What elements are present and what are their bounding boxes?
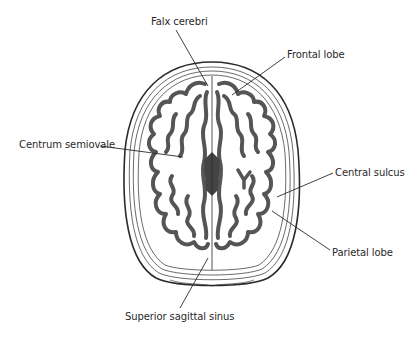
label-superior-sagittal-sinus: Superior sagittal sinus [125, 311, 234, 323]
label-frontal-lobe: Frontal lobe [287, 49, 345, 61]
label-centrum-semiovale: Centrum semiovale [19, 139, 115, 151]
label-falx-cerebri: Falx cerebri [151, 16, 208, 28]
label-parietal-lobe: Parietal lobe [332, 247, 393, 259]
label-central-sulcus: Central sulcus [335, 167, 405, 179]
